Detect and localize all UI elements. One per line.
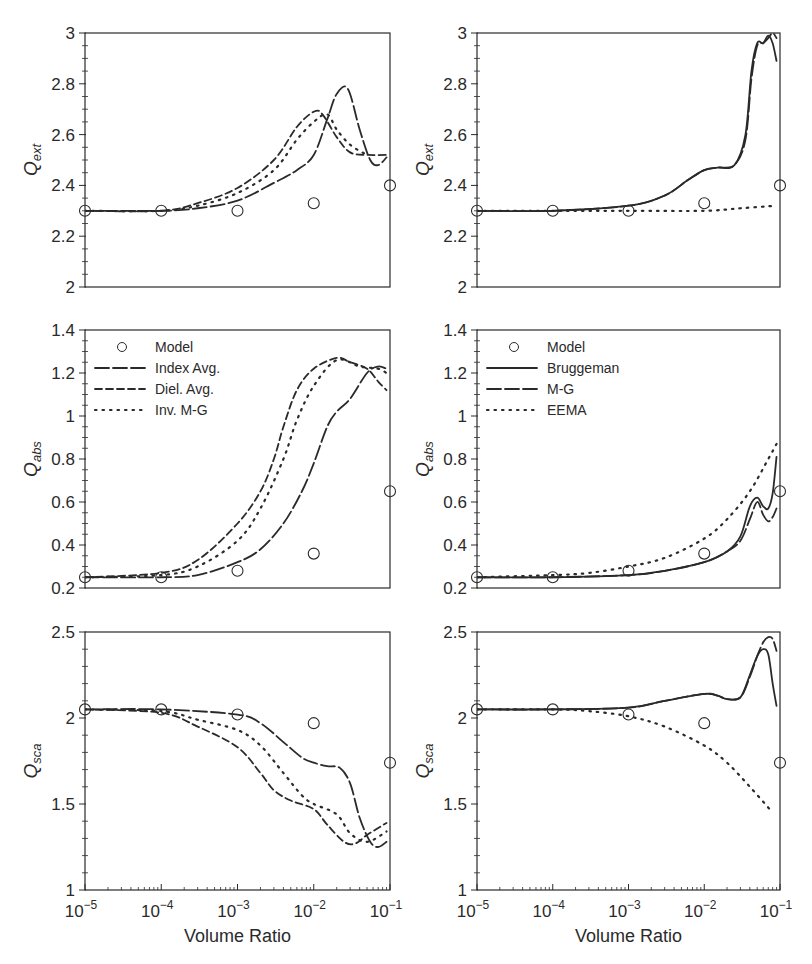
legend-label: Bruggeman xyxy=(547,360,619,376)
model-marker xyxy=(699,718,710,729)
x-tick-label: 10−5 xyxy=(65,898,98,921)
y-tick-label: 3 xyxy=(66,24,75,43)
x-tick-label: 10−5 xyxy=(457,898,490,921)
legend-model-marker xyxy=(510,343,519,352)
series-index-avg- xyxy=(85,86,387,211)
y-tick-label: 0.4 xyxy=(51,536,75,555)
series-m-g xyxy=(477,637,777,710)
series-inv-m-g xyxy=(85,359,387,577)
y-axis-label: Qabs xyxy=(412,441,436,477)
model-marker xyxy=(699,198,710,209)
series-index-avg- xyxy=(85,709,387,847)
figure: 22.22.42.62.83Qext22.22.42.62.83Qext0.20… xyxy=(0,0,812,964)
y-tick-label: 2.8 xyxy=(51,75,75,94)
y-tick-label: 2.5 xyxy=(51,623,75,642)
y-tick-label: 1 xyxy=(66,407,75,426)
x-tick-label: 10−3 xyxy=(608,898,641,921)
y-tick-label: 1.5 xyxy=(443,795,467,814)
y-tick-label: 2.4 xyxy=(51,176,75,195)
series-bruggeman xyxy=(477,457,777,578)
panel-right-qabs: 0.20.40.60.811.21.4QabsModelBruggemanM-G… xyxy=(412,321,786,598)
x-tick-label: 10−4 xyxy=(532,898,565,921)
y-tick-label: 2 xyxy=(458,709,467,728)
series-eema xyxy=(477,444,777,577)
y-tick-label: 2 xyxy=(66,709,75,728)
y-tick-label: 0.4 xyxy=(443,536,467,555)
y-tick-label: 1 xyxy=(458,881,467,900)
model-marker xyxy=(308,198,319,209)
legend: ModelBruggemanM-GEEMA xyxy=(487,339,619,418)
y-tick-label: 2.5 xyxy=(443,623,467,642)
plot-frame xyxy=(85,632,390,890)
series-diel-avg- xyxy=(85,110,387,211)
model-marker xyxy=(623,709,634,720)
legend-label: Inv. M-G xyxy=(155,402,208,418)
chart-grid: 22.22.42.62.83Qext22.22.42.62.83Qext0.20… xyxy=(0,0,812,964)
y-tick-label: 0.6 xyxy=(443,493,467,512)
model-marker xyxy=(699,548,710,559)
panel-left-qext: 22.22.42.62.83Qext xyxy=(20,24,396,297)
model-marker xyxy=(232,565,243,576)
panel-right-qext: 22.22.42.62.83Qext xyxy=(412,24,786,297)
y-axis-label: Qsca xyxy=(412,743,436,778)
x-tick-label: 10−2 xyxy=(684,898,717,921)
y-tick-label: 2 xyxy=(66,278,75,297)
plot-frame xyxy=(477,33,780,287)
series-inv-m-g xyxy=(85,709,387,841)
y-tick-label: 2.2 xyxy=(443,227,467,246)
y-axis-label: Qext xyxy=(412,143,436,177)
model-marker xyxy=(308,718,319,729)
model-marker xyxy=(308,548,319,559)
panel-right-qsca: 11.522.5Qsca10−510−410−310−210−1Volume R… xyxy=(412,623,793,946)
y-axis-label: Qsca xyxy=(20,743,44,778)
y-tick-label: 1.4 xyxy=(51,321,75,340)
y-tick-label: 1.5 xyxy=(51,795,75,814)
series-eema xyxy=(477,709,773,812)
series-index-avg- xyxy=(85,366,387,577)
series-diel-avg- xyxy=(85,358,387,577)
y-axis-label: Qext xyxy=(20,143,44,177)
y-tick-label: 2 xyxy=(458,278,467,297)
y-tick-label: 0.2 xyxy=(51,579,75,598)
x-tick-label: 10−4 xyxy=(141,898,174,921)
y-tick-label: 3 xyxy=(458,24,467,43)
legend-label: EEMA xyxy=(547,402,587,418)
model-marker xyxy=(232,205,243,216)
x-axis-label: Volume Ratio xyxy=(575,926,682,946)
x-tick-label: 10−2 xyxy=(293,898,326,921)
x-tick-label: 10−1 xyxy=(760,898,793,921)
series-m-g xyxy=(477,33,777,211)
y-tick-label: 0.8 xyxy=(51,450,75,469)
panel-left-qsca: 11.522.5Qsca10−510−410−310−210−1Volume R… xyxy=(20,623,403,946)
x-tick-label: 10−1 xyxy=(370,898,403,921)
y-tick-label: 1 xyxy=(66,881,75,900)
x-axis-label: Volume Ratio xyxy=(184,926,291,946)
y-tick-label: 2.2 xyxy=(51,227,75,246)
legend: ModelIndex Avg.Diel. Avg.Inv. M-G xyxy=(95,339,220,418)
legend-model-marker xyxy=(118,343,127,352)
y-tick-label: 2.6 xyxy=(51,126,75,145)
y-tick-label: 0.2 xyxy=(443,579,467,598)
legend-label: Model xyxy=(547,339,585,355)
series-bruggeman xyxy=(477,36,777,212)
y-tick-label: 2.4 xyxy=(443,176,467,195)
panel-left-qabs: 0.20.40.60.811.21.4QabsModelIndex Avg.Di… xyxy=(20,321,396,598)
y-tick-label: 0.8 xyxy=(443,450,467,469)
plot-frame xyxy=(477,632,780,890)
y-tick-label: 2.8 xyxy=(443,75,467,94)
legend-label: M-G xyxy=(547,381,574,397)
y-tick-label: 1.2 xyxy=(443,364,467,383)
y-tick-label: 0.6 xyxy=(51,493,75,512)
y-tick-label: 1.2 xyxy=(51,364,75,383)
legend-label: Index Avg. xyxy=(155,360,220,376)
y-tick-label: 2.6 xyxy=(443,126,467,145)
y-axis-label: Qabs xyxy=(20,441,44,477)
series-diel-avg- xyxy=(85,709,387,844)
y-tick-label: 1.4 xyxy=(443,321,467,340)
x-tick-label: 10−3 xyxy=(217,898,250,921)
y-tick-label: 1 xyxy=(458,407,467,426)
legend-label: Model xyxy=(155,339,193,355)
plot-frame xyxy=(85,33,390,287)
legend-label: Diel. Avg. xyxy=(155,381,214,397)
